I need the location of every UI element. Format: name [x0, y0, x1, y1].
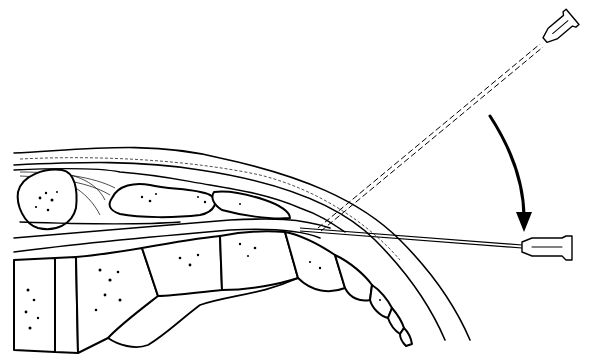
medical-illustration — [0, 0, 592, 363]
needle-final — [300, 228, 572, 260]
bony-segments — [14, 231, 412, 353]
needle-initial — [318, 9, 579, 231]
rotation-arrow-icon — [490, 116, 532, 232]
